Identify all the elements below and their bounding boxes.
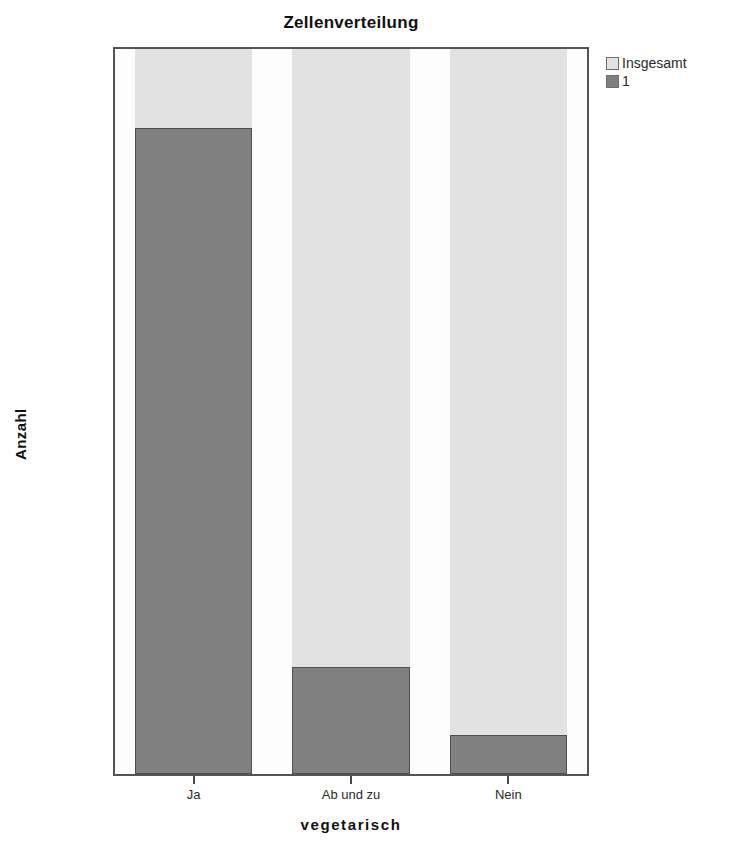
legend-item-1[interactable]: 1	[606, 72, 731, 90]
x-tick-mark	[350, 776, 352, 784]
legend-swatch-insgesamt	[606, 57, 619, 70]
y-axis-title: Anzahl	[12, 0, 52, 460]
bar-group	[135, 49, 252, 774]
legend-label-insgesamt: Insgesamt	[622, 56, 687, 71]
x-tick-mark	[507, 776, 509, 784]
bar-group	[450, 49, 567, 774]
bar-insgesamt[interactable]	[292, 49, 409, 774]
bar-value[interactable]	[135, 128, 252, 774]
bar-value[interactable]	[292, 667, 409, 774]
bars-container	[115, 49, 587, 774]
x-axis: JaAb und zuNein	[113, 776, 589, 806]
x-tick-3: Nein	[428, 776, 588, 802]
plot-area	[113, 47, 589, 776]
chart-legend: Insgesamt 1	[606, 54, 731, 90]
x-tick-label: Ja	[114, 787, 274, 802]
bar-value[interactable]	[450, 735, 567, 774]
legend-swatch-1	[606, 75, 619, 88]
x-axis-title: vegetarisch	[113, 816, 589, 833]
chart-title: Zellenverteilung	[113, 13, 589, 33]
x-tick-1: Ja	[114, 776, 274, 802]
x-tick-2: Ab und zu	[271, 776, 431, 802]
legend-item-insgesamt[interactable]: Insgesamt	[606, 54, 731, 72]
x-tick-label: Nein	[428, 787, 588, 802]
x-tick-mark	[193, 776, 195, 784]
bar-group	[292, 49, 409, 774]
legend-label-1: 1	[622, 74, 630, 89]
bar-insgesamt[interactable]	[450, 49, 567, 774]
x-tick-label: Ab und zu	[271, 787, 431, 802]
